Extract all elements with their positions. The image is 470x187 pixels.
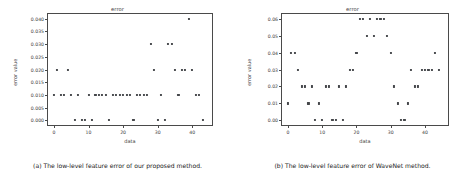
data-point: [421, 68, 423, 70]
y-tick-mark: [279, 120, 281, 121]
data-point: [84, 119, 86, 121]
x-tick-label: 20: [120, 130, 126, 135]
y-tick-mark: [45, 57, 47, 58]
x-tick-mark: [192, 126, 193, 128]
data-point: [98, 94, 100, 96]
y-tick-label: 0.00: [254, 118, 278, 123]
data-point: [287, 102, 289, 104]
y-tick-label: 0.020: [20, 67, 44, 72]
y-axis-label: error value: [12, 59, 18, 86]
y-tick-label: 0.025: [20, 54, 44, 59]
data-point: [77, 94, 79, 96]
data-point: [335, 119, 337, 121]
chart-title: error: [0, 6, 235, 12]
data-point: [407, 102, 409, 104]
data-point: [122, 94, 124, 96]
data-point: [366, 35, 368, 37]
data-point: [417, 85, 419, 87]
data-point: [101, 94, 103, 96]
data-point: [410, 68, 412, 70]
y-tick-mark: [279, 36, 281, 37]
data-point: [397, 102, 399, 104]
data-point: [125, 94, 127, 96]
data-point: [132, 119, 134, 121]
y-tick-label: 0.01: [254, 101, 278, 106]
y-axis-label: error value: [246, 59, 252, 86]
x-tick-mark: [356, 126, 357, 128]
x-tick-label: 40: [189, 130, 195, 135]
data-point: [362, 18, 364, 20]
data-point: [325, 85, 327, 87]
data-point: [290, 51, 292, 53]
y-tick-mark: [45, 44, 47, 45]
y-tick-label: 0.05: [254, 33, 278, 38]
y-tick-label: 0.035: [20, 29, 44, 34]
data-point: [376, 18, 378, 20]
data-point: [338, 85, 340, 87]
y-tick-label: 0.04: [254, 50, 278, 55]
y-tick-label: 0.010: [20, 92, 44, 97]
y-tick-label: 0.015: [20, 80, 44, 85]
x-tick-label: 40: [422, 130, 428, 135]
data-point: [191, 68, 193, 70]
data-point: [174, 68, 176, 70]
data-point: [91, 119, 93, 121]
figure-sheet: error error value data 0.0000.0050.0100.…: [0, 0, 470, 187]
x-tick-label: 10: [319, 130, 325, 135]
data-point: [150, 43, 152, 45]
y-tick-label: 0.06: [254, 16, 278, 21]
data-point: [164, 119, 166, 121]
x-tick-mark: [288, 126, 289, 128]
data-point: [431, 68, 433, 70]
data-point: [352, 68, 354, 70]
data-point: [314, 119, 316, 121]
data-point: [390, 51, 392, 53]
data-point: [379, 18, 381, 20]
x-tick-label: 30: [155, 130, 161, 135]
x-tick-mark: [158, 126, 159, 128]
data-point: [318, 102, 320, 104]
data-point: [383, 18, 385, 20]
x-tick-mark: [322, 126, 323, 128]
x-tick-label: 0: [286, 130, 289, 135]
data-point: [170, 43, 172, 45]
data-point: [301, 85, 303, 87]
y-tick-label: 0.040: [20, 16, 44, 21]
data-point: [195, 94, 197, 96]
data-point: [184, 68, 186, 70]
data-point: [307, 102, 309, 104]
x-axis-label: data: [47, 138, 213, 144]
y-tick-label: 0.03: [254, 67, 278, 72]
data-point: [311, 85, 313, 87]
data-point: [53, 94, 55, 96]
data-point: [355, 51, 357, 53]
data-point: [188, 18, 190, 20]
y-tick-label: 0.000: [20, 118, 44, 123]
y-tick-mark: [45, 108, 47, 109]
data-point: [386, 35, 388, 37]
data-point: [342, 119, 344, 121]
y-tick-mark: [45, 70, 47, 71]
data-point: [400, 119, 402, 121]
data-point: [157, 119, 159, 121]
y-tick-mark: [279, 86, 281, 87]
data-point: [74, 119, 76, 121]
data-point: [143, 94, 145, 96]
data-point: [60, 94, 62, 96]
data-point: [345, 85, 347, 87]
y-tick-label: 0.02: [254, 84, 278, 89]
data-point: [87, 94, 89, 96]
plot-b: error error value data 0.000.010.020.030…: [235, 0, 470, 152]
plot-a: error error value data 0.0000.0050.0100.…: [0, 0, 235, 152]
x-tick-mark: [425, 126, 426, 128]
x-tick-mark: [54, 126, 55, 128]
data-point: [414, 85, 416, 87]
x-tick-label: 20: [353, 130, 359, 135]
y-tick-mark: [45, 82, 47, 83]
data-point: [108, 119, 110, 121]
chart-title: error: [235, 6, 470, 12]
data-point: [331, 119, 333, 121]
data-point: [139, 94, 141, 96]
x-tick-label: 0: [52, 130, 55, 135]
data-point: [424, 68, 426, 70]
